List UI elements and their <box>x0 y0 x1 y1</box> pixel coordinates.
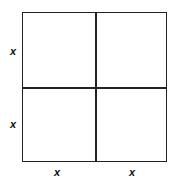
bottom-label-right: x <box>129 167 135 178</box>
horizontal-divider <box>23 87 166 89</box>
square-grid <box>22 12 167 162</box>
bottom-label-left: x <box>54 167 60 178</box>
left-label-bottom: x <box>10 119 16 130</box>
left-label-top: x <box>10 46 16 57</box>
